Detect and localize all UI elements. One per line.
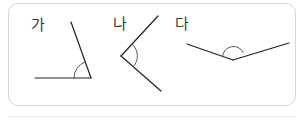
section-divider: [8, 116, 296, 117]
angle-figures-canvas: [9, 4, 297, 107]
figure-ga-angle-arc: [74, 62, 85, 78]
figure-na: [121, 16, 161, 91]
figure-label-da: 다: [175, 17, 189, 32]
figure-da-right-ray: [233, 43, 289, 60]
figure-da-left-ray: [187, 44, 233, 60]
figure-label-ga: 가: [31, 18, 45, 33]
figure-da-angle-arc: [223, 46, 244, 56]
figure-da: [187, 43, 289, 60]
angle-figures-panel: 가 나 다: [8, 3, 296, 106]
figure-ga-slanted-ray: [71, 22, 91, 78]
figure-label-na: 나: [113, 17, 127, 32]
figure-na-angle-arc: [132, 44, 137, 67]
figure-na-lower-ray: [121, 56, 161, 91]
screenshot-root: 가 나 다: [0, 0, 304, 122]
